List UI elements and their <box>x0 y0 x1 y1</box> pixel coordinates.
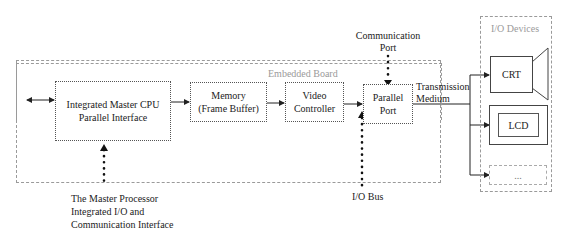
io-bus-annotation: I/O Bus <box>352 191 383 203</box>
lcd-label: LCD <box>509 119 529 132</box>
parallel-port-block: Parallel Port <box>363 84 413 124</box>
master-line2: Integrated I/O and <box>71 205 173 218</box>
memory-label-line1: Memory <box>198 89 259 102</box>
lcd-screen: LCD <box>498 113 539 137</box>
master-processor-annotation: The Master Processor Integrated I/O and … <box>71 192 173 231</box>
master-line1: The Master Processor <box>71 192 173 205</box>
transmission-line2: Medium <box>416 93 470 105</box>
embedded-board-label: Embedded Board <box>268 68 338 79</box>
parallel-label-line1: Parallel <box>373 91 404 104</box>
video-label-line2: Controller <box>294 102 335 115</box>
parallel-label-line2: Port <box>373 104 404 117</box>
comm-port-line2: Port <box>352 42 424 54</box>
memory-label-line2: (Frame Buffer) <box>198 102 259 115</box>
comm-port-line1: Communication <box>352 30 424 42</box>
cpu-label-line2: Parallel Interface <box>67 111 160 124</box>
crt-label: CRT <box>502 68 521 81</box>
video-controller-block: Video Controller <box>285 82 344 122</box>
transmission-medium-annotation: Transmission Medium <box>416 81 470 105</box>
memory-block: Memory (Frame Buffer) <box>190 82 267 122</box>
crt-device: CRT <box>490 56 533 93</box>
master-line3: Communication Interface <box>71 218 173 231</box>
video-label-line1: Video <box>294 89 335 102</box>
more-devices-label: ... <box>514 169 522 182</box>
io-devices-label: I/O Devices <box>491 23 539 34</box>
cpu-block: Integrated Master CPU Parallel Interface <box>55 81 171 141</box>
comm-port-annotation: Communication Port <box>352 30 424 54</box>
transmission-line1: Transmission <box>416 81 470 93</box>
cpu-label-line1: Integrated Master CPU <box>67 98 160 111</box>
more-devices: ... <box>489 165 547 185</box>
lcd-device: LCD <box>489 105 548 145</box>
